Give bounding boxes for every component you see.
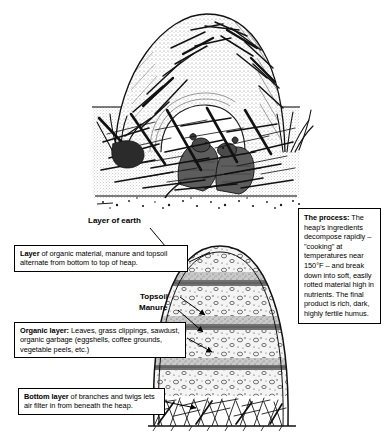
callout-the-process: The process: The heap's ingredients deco… <box>298 208 381 324</box>
label-manure: Manure <box>139 303 167 313</box>
label-layer-of-earth: Layer of earth <box>88 216 141 226</box>
callout-lead: Organic layer: <box>20 326 69 335</box>
ground-ticks <box>153 426 282 431</box>
pebble-scatter <box>97 197 300 209</box>
callout-layer-organic-material: Layer of organic material, manure and to… <box>14 245 188 272</box>
callout-lead: Layer <box>20 249 39 258</box>
label-topsoil: Topsoil <box>140 292 168 302</box>
callout-lead: The process: <box>304 213 349 222</box>
animal-lodge-illustration <box>55 2 333 210</box>
callout-organic-layer: Organic layer: Leaves, grass clippings, … <box>14 322 186 358</box>
callout-body: of organic material, manure and topsoil … <box>20 249 167 267</box>
layer-manure-3 <box>140 365 305 370</box>
layer-manure-1 <box>140 280 305 286</box>
callout-body: The heap's ingredients decompose rapidly… <box>304 213 374 318</box>
callout-lead: Bottom layer <box>24 392 69 401</box>
layer-topsoil-1 <box>140 272 305 280</box>
callout-bottom-layer: Bottom layer of branches and twigs lets … <box>18 388 165 415</box>
